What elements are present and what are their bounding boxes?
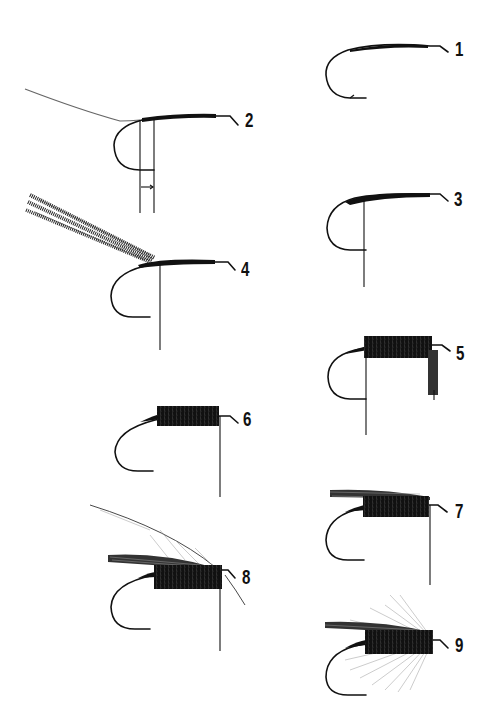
- step-5-hook: [328, 336, 450, 435]
- step-6-hook: [115, 406, 238, 497]
- herl-strands: [26, 195, 155, 262]
- step-label-1: 1: [455, 38, 463, 59]
- step-label-7: 7: [455, 500, 463, 521]
- step-7-hook: [326, 490, 447, 585]
- step-4-hook: [26, 195, 235, 350]
- step-9-hook: [325, 595, 448, 695]
- step-2-hook: [25, 89, 238, 213]
- step-label-2: 2: [245, 109, 253, 130]
- fly-tying-illustration: [0, 0, 488, 726]
- step-label-8: 8: [242, 566, 250, 587]
- step-label-6: 6: [243, 408, 251, 429]
- step-label-9: 9: [455, 634, 463, 655]
- step-label-4: 4: [241, 258, 249, 279]
- step-3-hook: [327, 193, 448, 287]
- step-label-3: 3: [454, 188, 462, 209]
- step-8-hook: [90, 505, 245, 651]
- step-1-hook: [326, 45, 448, 98]
- step-label-5: 5: [456, 342, 464, 363]
